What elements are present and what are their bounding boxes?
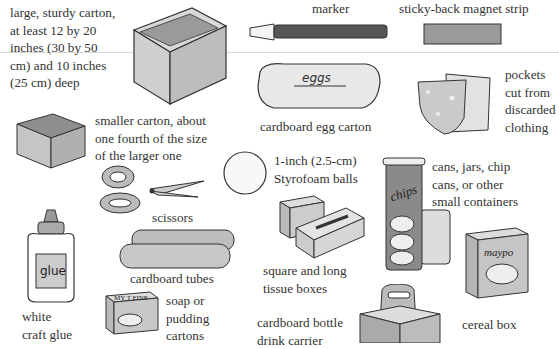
bottle-carrier-icon <box>358 284 442 343</box>
tissue-boxes-label: square and long tissue boxes <box>263 262 347 297</box>
egg-carton-label: cardboard egg carton <box>260 118 371 136</box>
svg-text:maypo: maypo <box>484 246 514 258</box>
svg-text:MY T FINE: MY T FINE <box>114 294 148 302</box>
glue-bottle-icon: glue <box>22 208 80 304</box>
cereal-box-icon: maypo <box>462 226 532 300</box>
scissors-icon <box>98 163 208 215</box>
soap-cartons-label: soap or pudding cartons <box>166 292 209 345</box>
large-carton-label: large, sturdy carton, at least 12 by 20 … <box>10 4 115 92</box>
cereal-box-label: cereal box <box>462 316 517 334</box>
marker-label: marker <box>312 0 349 18</box>
svg-text:eggs: eggs <box>302 71 331 85</box>
cardboard-tubes-icon <box>118 228 242 272</box>
cardboard-tubes-label: cardboard tubes <box>130 270 214 288</box>
containers-label: cans, jars, chip cans, or other small co… <box>432 158 518 211</box>
smaller-carton-label: smaller carton, about one fourth of the … <box>95 112 207 165</box>
glue-label: white craft glue <box>22 308 72 343</box>
tissue-boxes-icon <box>276 194 366 260</box>
marker-icon <box>248 22 390 42</box>
svg-text:glue: glue <box>40 264 66 278</box>
scissors-label: scissors <box>152 209 193 227</box>
bottle-carrier-label: cardboard bottle drink carrier <box>257 314 343 349</box>
styrofoam-ball-icon <box>222 150 268 196</box>
pockets-icon <box>416 70 492 136</box>
large-carton-icon <box>130 6 230 106</box>
magnet-strip-icon <box>423 22 503 46</box>
styrofoam-balls-label: 1-inch (2.5-cm) Styrofoam balls <box>274 152 358 187</box>
soap-carton-icon: MY T FINE <box>104 290 160 336</box>
egg-carton-icon: eggs <box>254 60 384 114</box>
magnet-strip-label: sticky-back magnet strip <box>399 0 529 18</box>
smaller-carton-icon <box>15 112 87 170</box>
pockets-label: pockets cut from discarded clothing <box>505 66 556 136</box>
